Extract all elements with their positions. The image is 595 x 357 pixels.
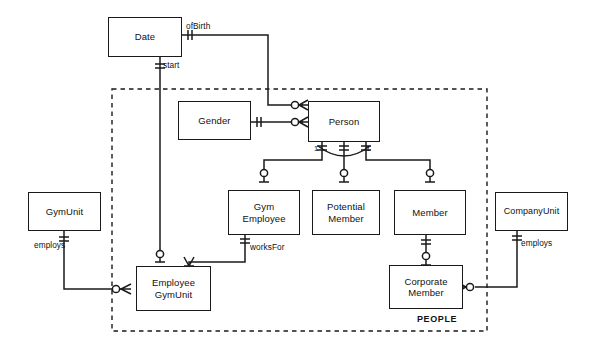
edge-label-employs-companyunit: employs	[521, 239, 552, 248]
entity-gender-label: Gender	[198, 115, 230, 127]
connector-date-start-employeegymunit	[155, 57, 165, 262]
entity-employee-gymunit[interactable]: Employee GymUnit	[136, 266, 211, 311]
entity-potential-member[interactable]: Potential Member	[312, 190, 380, 235]
entity-potential-member-label: Potential Member	[327, 201, 365, 224]
er-diagram-canvas: Person ===== --> EmployeeGymUn	[0, 0, 595, 357]
entity-gym-unit[interactable]: GymUnit	[28, 192, 101, 231]
entity-member[interactable]: Member	[394, 190, 466, 235]
entity-company-unit-label: CompanyUnit	[504, 206, 560, 218]
cardinality-label-left: 1	[314, 145, 318, 153]
entity-person[interactable]: Person	[308, 101, 380, 142]
entity-employee-gymunit-label: Employee GymUnit	[152, 277, 195, 300]
entity-gym-employee[interactable]: Gym Employee	[228, 190, 300, 235]
entity-date-label: Date	[135, 31, 155, 43]
diagram-connector-layer: Person ===== --> EmployeeGymUn	[0, 0, 595, 357]
entity-gym-employee-label: Gym Employee	[242, 201, 285, 224]
entity-company-unit[interactable]: CompanyUnit	[495, 192, 568, 231]
connector-companyunit-employs-corporatemember	[457, 231, 522, 292]
connector-date-ofbirth-person	[182, 30, 308, 110]
edge-label-employs-gymunit: employs	[34, 241, 65, 250]
connector-gender-person	[251, 117, 308, 127]
entity-person-label: Person	[329, 116, 360, 128]
entity-gym-unit-label: GymUnit	[46, 206, 84, 218]
entity-corporate-member[interactable]: Corporate Member	[389, 265, 463, 309]
cardinality-label-right: 1	[366, 145, 370, 153]
entity-corporate-member-label: Corporate Member	[404, 276, 447, 299]
connector-gymemployee-worksfor-employeegymunit	[184, 235, 250, 266]
edge-label-worksfor: worksFor	[250, 243, 285, 252]
edge-label-start: start	[163, 61, 179, 70]
group-label-people: PEOPLE	[417, 314, 457, 324]
entity-gender[interactable]: Gender	[178, 101, 251, 140]
connector-gymunit-employs-employeegymunit	[59, 231, 131, 294]
entity-member-label: Member	[412, 207, 447, 219]
edge-label-ofbirth: ofBirth	[186, 22, 210, 31]
connector-member-corporatemember	[421, 235, 431, 265]
entity-date[interactable]: Date	[108, 17, 182, 57]
